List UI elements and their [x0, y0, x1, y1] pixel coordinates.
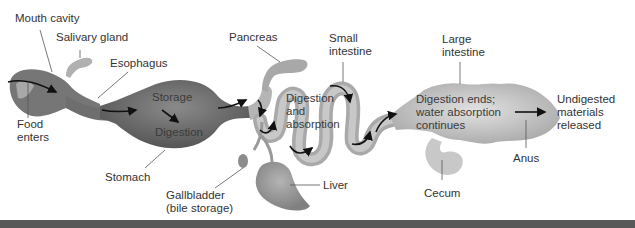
label-large-inner-line3: continues [416, 119, 465, 131]
label-food-enters-line2: enters [17, 131, 49, 143]
label-large-intestine-line1: Large [442, 33, 471, 45]
label-digestion: Digestion [155, 126, 203, 138]
label-gallbladder-line1: Gallbladder [166, 189, 225, 201]
label-undigested-line2: materials [557, 106, 604, 118]
label-undigested-line3: released [557, 119, 601, 131]
label-liver: Liver [323, 179, 348, 191]
label-large-inner-line2: water absorption [415, 106, 501, 118]
liver-shape [256, 162, 310, 211]
bottom-bar [0, 220, 635, 228]
label-large-inner-line1: Digestion ends; [416, 93, 495, 105]
label-pancreas: Pancreas [229, 31, 278, 43]
label-mouth-cavity: Mouth cavity [15, 12, 80, 24]
label-stomach: Stomach [105, 171, 150, 183]
label-large-intestine-line2: intestine [442, 46, 485, 58]
cecum-shape [425, 138, 462, 175]
label-small-intestine-line1: Small [329, 32, 358, 44]
label-digestion-absorption-line1: Digestion [286, 92, 334, 104]
label-gallbladder-line2: (bile storage) [166, 202, 233, 214]
label-food-enters-line1: Food [17, 118, 43, 130]
label-esophagus: Esophagus [110, 57, 168, 69]
label-storage: Storage [152, 91, 192, 103]
label-digestion-absorption-line3: absorption [286, 118, 340, 130]
label-undigested-line1: Undigested [557, 93, 615, 105]
gallbladder-shape [238, 154, 248, 168]
label-salivary-gland: Salivary gland [56, 31, 128, 43]
label-digestion-absorption-line2: and [286, 105, 305, 117]
salivary-gland-shape [66, 58, 92, 78]
label-cecum: Cecum [424, 187, 460, 199]
label-anus: Anus [513, 152, 539, 164]
label-small-intestine-line2: intestine [329, 45, 372, 57]
digestive-system-diagram: Mouth cavity Salivary gland Esophagus Fo… [0, 0, 635, 228]
